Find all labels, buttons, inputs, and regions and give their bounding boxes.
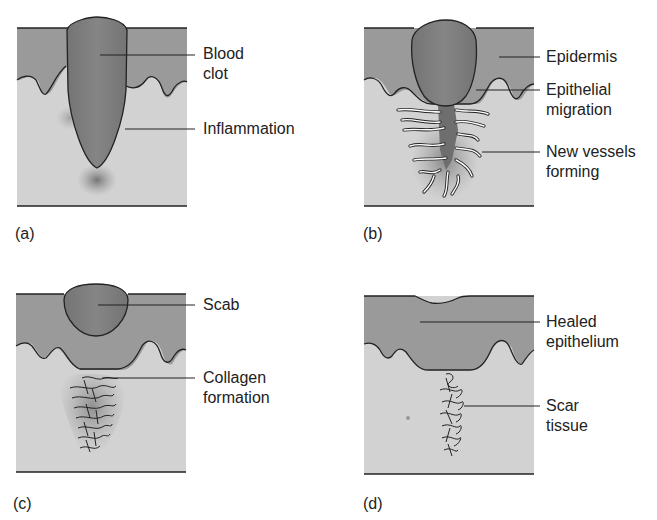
label-blood-clot: Blood clot <box>203 44 244 84</box>
label-healed-epithelium: Healed epithelium <box>546 312 619 352</box>
label-new-vessels-forming: New vessels forming <box>546 142 636 182</box>
panel-label-d: (d) <box>363 495 383 513</box>
wound-healing-diagram <box>0 0 657 520</box>
panel-label-b: (b) <box>363 225 383 243</box>
label-scab: Scab <box>203 295 239 315</box>
label-scar-tissue: Scar tissue <box>546 396 588 436</box>
panel-label-c: (c) <box>13 495 32 513</box>
label-inflammation: Inflammation <box>203 119 295 139</box>
panel-c <box>16 284 195 472</box>
panel-b <box>364 20 540 206</box>
label-epithelial-migration: Epithelial migration <box>546 80 612 120</box>
label-collagen-formation: Collagen formation <box>203 368 270 408</box>
label-epidermis: Epidermis <box>546 47 617 67</box>
panel-label-a: (a) <box>15 225 35 243</box>
panel-d <box>364 296 540 474</box>
panel-a <box>17 17 195 206</box>
